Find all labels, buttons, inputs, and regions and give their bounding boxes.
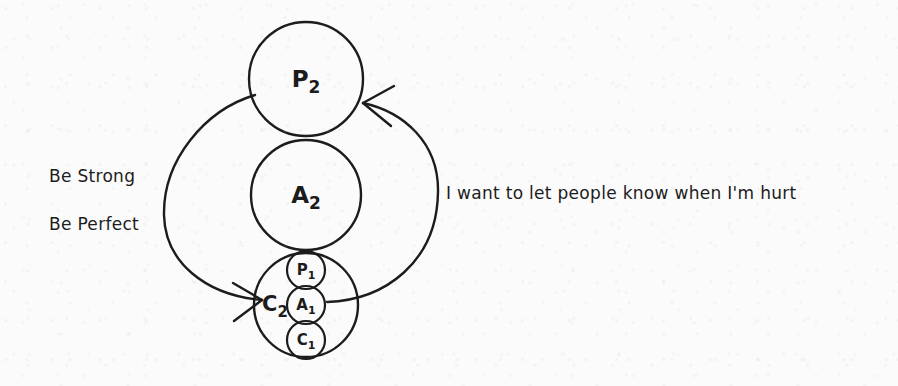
ego-state-label-P2: P2	[292, 66, 321, 97]
driver-arrowhead-barb-lower	[234, 300, 262, 321]
permission-arrowhead	[363, 86, 394, 126]
annotation-permission-message: I want to let people know when I'm hurt	[446, 183, 797, 203]
permission-arrowhead-barb-upper	[363, 86, 394, 103]
arrow-parent-to-child	[164, 95, 262, 321]
annotation-be-strong: Be Strong	[49, 166, 135, 186]
driver-arrow-path	[164, 95, 262, 300]
ego-state-P1: P1	[287, 251, 325, 289]
ego-state-A2: A2	[251, 140, 361, 250]
ego-state-label-P1: P1	[297, 261, 316, 282]
ego-state-label-A1: A1	[296, 296, 315, 317]
ego-state-label-C1: C1	[297, 331, 316, 352]
permission-arrow-path	[327, 103, 438, 302]
ego-state-P2: P2	[249, 22, 363, 136]
ego-state-label-A2: A2	[291, 182, 321, 213]
ego-state-label-C2: C2	[262, 292, 288, 321]
ego-state-C1: C1	[287, 321, 325, 359]
diagram-page: P2 A2 C2 P1 A1 C1 Be Strong Be Perfect I…	[0, 0, 898, 386]
ego-state-A1: A1	[287, 286, 325, 324]
annotation-be-perfect: Be Perfect	[49, 214, 139, 234]
